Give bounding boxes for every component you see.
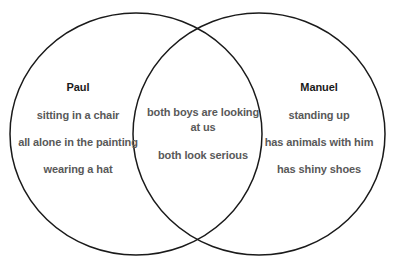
venn-diagram: Paul sitting in a chair all alone in the… bbox=[0, 0, 396, 262]
intersection-content: both boys are looking at us both look se… bbox=[143, 105, 263, 176]
right-set-item: has animals with him bbox=[254, 135, 384, 150]
right-set-item: standing up bbox=[254, 108, 384, 123]
left-set-item: all alone in the painting bbox=[12, 135, 144, 150]
right-set-item: has shiny shoes bbox=[254, 162, 384, 177]
left-set-item: sitting in a chair bbox=[12, 108, 144, 123]
intersection-item: both boys are looking at us bbox=[143, 105, 263, 135]
left-set-item: wearing a hat bbox=[12, 162, 144, 177]
right-set-content: Manuel standing up has animals with him … bbox=[254, 80, 384, 177]
left-set-content: Paul sitting in a chair all alone in the… bbox=[12, 80, 144, 177]
right-set-title: Manuel bbox=[254, 80, 384, 95]
intersection-item: both look serious bbox=[143, 148, 263, 163]
left-set-title: Paul bbox=[12, 80, 144, 95]
